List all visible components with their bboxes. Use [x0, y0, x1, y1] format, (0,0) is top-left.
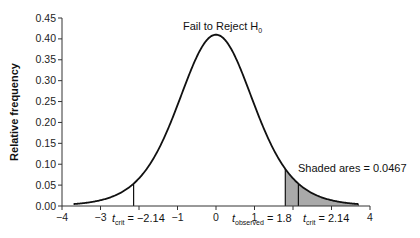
x-tick-label: 4: [367, 211, 373, 223]
x-tick-label: −3: [95, 211, 107, 223]
density-curve: [74, 35, 359, 204]
fail-to-reject-label: Fail to Reject H0: [183, 20, 262, 34]
curve-path: [74, 35, 359, 204]
y-tick-label: 0.00: [36, 200, 57, 212]
y-axis-label: Relative frequency: [8, 62, 20, 161]
y-tick-label: 0.40: [36, 32, 57, 44]
y-tick-label: 0.25: [36, 95, 57, 107]
shaded-rejection-region: [285, 169, 358, 206]
y-tick-label: 0.10: [36, 158, 57, 170]
x-tick-label: 0: [213, 211, 219, 223]
x-tick-label: −4: [56, 211, 68, 223]
y-tick-label: 0.15: [36, 137, 57, 149]
y-tick-label: 0.05: [36, 179, 57, 191]
y-tick-label: 0.20: [36, 116, 57, 128]
t-crit-left-label: tcrit = −2.14: [112, 212, 165, 226]
y-tick-label: 0.35: [36, 53, 57, 65]
t-crit-right-label: tcrit = 2.14: [303, 212, 349, 226]
t-observed-label: tobserved = 1.8: [232, 212, 292, 226]
shaded-area-label: Shaded ares = 0.0467: [298, 162, 407, 174]
t-distribution-chart: 0.000.050.100.150.200.250.300.350.400.45…: [0, 0, 420, 238]
y-tick-label: 0.30: [36, 74, 57, 86]
y-tick-label: 0.45: [36, 12, 57, 24]
x-tick-label: −1: [172, 211, 184, 223]
shaded-area: [285, 169, 358, 206]
critical-value-lines: [134, 169, 299, 206]
